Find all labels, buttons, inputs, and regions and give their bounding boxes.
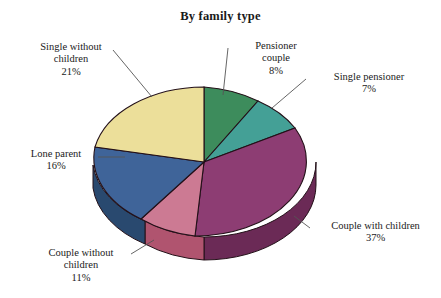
label-single-without-children-name-line1: Single without [40,41,102,52]
label-pensioner-couple-name-line2: couple [233,52,319,64]
label-single-pensioner-name: Single pensioner [334,71,404,82]
label-couple-with-children: Couple with children 37% [313,220,438,245]
label-single-pensioner-value: 7% [309,83,429,95]
label-couple-with-children-name: Couple with children [331,220,420,231]
label-lone-parent: Lone parent 16% [10,148,102,173]
label-lone-parent-name: Lone parent [31,148,81,159]
label-couple-without-children: Couple without children 11% [26,247,136,284]
label-couple-without-children-name-line1: Couple without [48,247,113,258]
label-single-without-children: Single without children 21% [18,41,124,78]
label-couple-without-children-name-line2: children [26,259,136,271]
label-single-without-children-name-line2: children [18,53,124,65]
label-couple-with-children-value: 37% [313,232,438,244]
leader-pensioner-couple [223,48,228,95]
label-pensioner-couple: Pensioner couple 8% [233,40,319,77]
pie-chart-figure: By family type [0,0,441,298]
label-pensioner-couple-name-line1: Pensioner [255,40,296,51]
leader-single-pensioner [272,79,306,108]
label-couple-without-children-value: 11% [26,272,136,284]
label-single-without-children-value: 21% [18,66,124,78]
label-pensioner-couple-value: 8% [233,65,319,77]
label-single-pensioner: Single pensioner 7% [309,71,429,96]
label-lone-parent-value: 16% [10,160,102,172]
